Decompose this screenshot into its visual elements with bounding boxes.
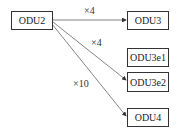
node-odu3-label: ODU3 [135,15,162,26]
node-odu2-label: ODU2 [19,15,46,26]
edge-odu2-odu4 [52,24,126,116]
edge-label-odu4: ×10 [73,78,89,89]
edge-odu2-odu3e2 [53,22,126,80]
node-odu4: ODU4 [127,108,169,127]
edge-label-odu3e2: ×4 [91,37,102,48]
node-odu3e1-label: ODU3e1 [130,52,166,63]
node-odu3: ODU3 [127,11,169,30]
node-odu2: ODU2 [11,11,53,30]
edge-label-odu3: ×4 [84,5,95,16]
node-odu4-label: ODU4 [135,112,162,123]
node-odu3e2-label: ODU3e2 [130,77,166,88]
node-odu3e2: ODU3e2 [127,72,169,92]
node-odu3e1: ODU3e1 [127,48,169,67]
